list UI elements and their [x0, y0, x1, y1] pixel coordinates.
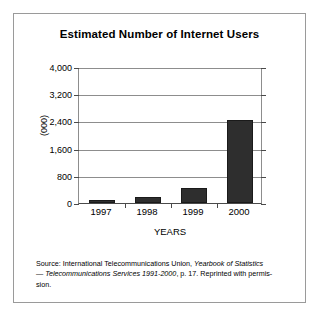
bar — [227, 120, 253, 203]
y-tick-mark-right — [261, 122, 266, 123]
x-tick-label: 1997 — [90, 206, 111, 217]
x-axis-title: YEARS — [78, 226, 262, 237]
y-tick-mark — [74, 95, 79, 96]
y-tick-label: 1,600 — [49, 145, 72, 155]
x-axis-tick-labels: 1997199819992000 — [78, 206, 262, 220]
y-axis-tick-labels: 08001,6002,4003,2004,000 — [34, 68, 72, 204]
y-tick-mark — [74, 177, 79, 178]
bar — [181, 188, 207, 203]
y-tick-mark-right — [261, 204, 266, 205]
source-note-line1-italic: Yearbook of Statistics — [194, 259, 263, 268]
y-tick-mark-right — [261, 95, 266, 96]
source-note-line1-prefix: Source: International Telecommunications… — [36, 259, 194, 268]
y-tick-label: 3,200 — [49, 90, 72, 100]
y-tick-mark — [74, 204, 79, 205]
y-tick-mark — [74, 150, 79, 151]
source-note-line2-italic: Telecommunications Services 1991-2000 — [45, 269, 176, 278]
source-note: Source: International Telecommunications… — [36, 259, 288, 290]
plot-area — [78, 68, 262, 204]
y-tick-mark-right — [261, 177, 266, 178]
y-tick-label: 0 — [67, 199, 72, 209]
x-tick-label: 2000 — [228, 206, 249, 217]
y-tick-label: 800 — [57, 172, 72, 182]
y-tick-mark — [74, 68, 79, 69]
y-tick-mark-right — [261, 150, 266, 151]
figure-frame: Estimated Number of Internet Users (000)… — [13, 13, 306, 303]
y-tick-mark-right — [261, 68, 266, 69]
x-tick-label: 1998 — [136, 206, 157, 217]
y-tick-label: 2,400 — [49, 117, 72, 127]
bar-series — [79, 68, 261, 203]
source-note-line2-dash: — — [36, 269, 45, 278]
x-tick-label: 1999 — [182, 206, 203, 217]
bar — [89, 200, 115, 203]
source-note-line2-suffix: , p. 17. Reprinted with permis- — [176, 269, 272, 278]
bar — [135, 197, 161, 203]
y-tick-label: 4,000 — [49, 63, 72, 73]
source-note-line3: sion. — [36, 280, 51, 289]
y-tick-mark — [74, 122, 79, 123]
